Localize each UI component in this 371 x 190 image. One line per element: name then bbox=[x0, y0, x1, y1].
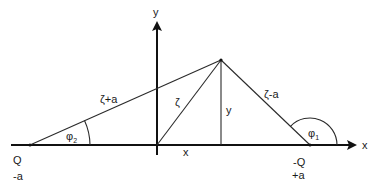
right-charge-point bbox=[309, 144, 312, 147]
label-left-distance: ζ+a bbox=[100, 93, 118, 105]
y-axis-label: y bbox=[153, 6, 159, 18]
label-origin-distance: ζ bbox=[175, 96, 180, 108]
phi2-arc bbox=[85, 121, 91, 146]
label-left-charge-name: Q bbox=[13, 154, 22, 166]
field-diagram: x y ζ+a ζ ζ-a y x φ2 φ1 Q -a -Q +a bbox=[0, 0, 371, 190]
x-axis-label: x bbox=[362, 139, 368, 151]
label-base: x bbox=[183, 146, 189, 158]
label-height: y bbox=[226, 104, 232, 116]
line-origin-to-point bbox=[157, 60, 221, 145]
left-charge-point bbox=[29, 144, 32, 147]
label-phi2: φ2 bbox=[66, 130, 77, 144]
line-left-charge-to-point bbox=[30, 60, 221, 145]
label-right-charge-position: +a bbox=[292, 169, 305, 181]
line-point-to-right-charge bbox=[221, 60, 310, 145]
label-right-charge-name: -Q bbox=[293, 156, 306, 168]
label-right-distance: ζ-a bbox=[264, 88, 280, 100]
field-point bbox=[219, 58, 222, 61]
label-phi1: φ1 bbox=[308, 127, 319, 141]
label-left-charge-position: -a bbox=[13, 170, 24, 182]
